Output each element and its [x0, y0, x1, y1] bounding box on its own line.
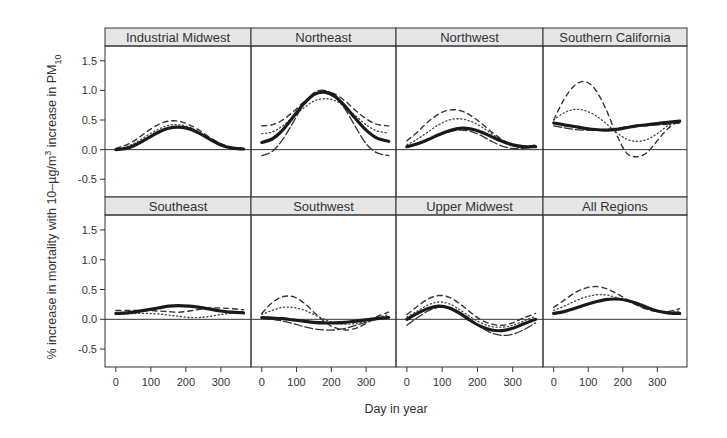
panel-border: [251, 215, 396, 367]
panel-border: [105, 46, 251, 197]
series-dotted: [116, 313, 244, 317]
y-tick-label: 1.0: [82, 84, 97, 96]
panel-title: Southeast: [149, 199, 208, 214]
panel-northwest: Northwest: [396, 28, 543, 197]
series-estimate: [407, 306, 536, 331]
y-tick-label: 0.5: [82, 284, 97, 296]
series-estimate: [262, 92, 389, 142]
x-tick-label: 300: [357, 376, 375, 388]
x-tick-label: 100: [579, 376, 597, 388]
x-tick-label: 300: [648, 376, 666, 388]
series-dashed2: [262, 90, 389, 155]
series-estimate: [116, 127, 244, 150]
y-axis-title-subscript: 10: [53, 55, 63, 65]
y-axis-title-middle: increase in PM: [45, 65, 59, 151]
panel-grid: Industrial MidwestNortheastNorthwestSout…: [105, 28, 687, 367]
series-estimate: [554, 299, 680, 313]
x-tick-label: 200: [614, 376, 632, 388]
panel-title: Southwest: [293, 199, 354, 214]
panel-border: [396, 215, 543, 367]
y-tick-label: 0.0: [82, 313, 97, 325]
panel-industrial-midwest: Industrial Midwest: [105, 28, 251, 197]
panel-title: Southern California: [559, 30, 671, 45]
panel-border: [543, 215, 687, 367]
x-tick-label: 200: [177, 376, 195, 388]
x-tick-label: 200: [468, 376, 486, 388]
series-dotted: [407, 119, 536, 148]
x-tick-label: 300: [212, 376, 230, 388]
y-tick-label: 1.0: [82, 254, 97, 266]
series-dashed: [262, 92, 389, 126]
y-axis-title-prefix: % increase in mortality with 10–µg/m: [45, 156, 59, 360]
panel-border: [396, 46, 543, 197]
y-axis-title: % increase in mortality with 10–µg/m3 in…: [43, 55, 63, 360]
y-tick-label: 0.5: [82, 114, 97, 126]
y-axis: -0.50.00.51.01.5-0.50.00.51.01.5: [78, 55, 105, 355]
panel-title: All Regions: [582, 199, 648, 214]
x-tick-label: 0: [113, 376, 119, 388]
y-tick-label: 0.0: [82, 144, 97, 156]
series-dotted: [262, 99, 389, 134]
x-tick-label: 100: [287, 376, 305, 388]
panel-northeast: Northeast: [251, 28, 396, 197]
x-tick-label: 200: [322, 376, 340, 388]
series-dashed: [262, 296, 389, 330]
x-axis-title: Day in year: [364, 402, 427, 416]
panel-southern-california: Southern California: [543, 28, 687, 197]
y-tick-label: -0.5: [78, 173, 97, 185]
y-tick-label: 1.5: [82, 224, 97, 236]
series-dotted: [407, 302, 536, 327]
x-tick-label: 0: [404, 376, 410, 388]
x-tick-label: 0: [259, 376, 265, 388]
panel-all-regions: All Regions: [543, 197, 687, 367]
series-dashed: [554, 81, 680, 156]
panel-southeast: Southeast: [105, 197, 251, 367]
panel-title: Northeast: [295, 30, 352, 45]
panel-southwest: Southwest: [251, 197, 396, 367]
x-tick-label: 100: [433, 376, 451, 388]
panel-upper-midwest: Upper Midwest: [396, 197, 543, 367]
panel-title: Industrial Midwest: [126, 30, 230, 45]
panel-title: Northwest: [440, 30, 499, 45]
panel-border: [251, 46, 396, 197]
chart: Industrial MidwestNortheastNorthwestSout…: [0, 0, 727, 438]
panel-title: Upper Midwest: [426, 199, 513, 214]
x-tick-label: 100: [142, 376, 160, 388]
x-axis: 0100200300010020030001002003000100200300: [113, 367, 667, 388]
x-tick-label: 300: [504, 376, 522, 388]
panel-border: [105, 215, 251, 367]
y-tick-label: 1.5: [82, 55, 97, 67]
y-tick-label: -0.5: [78, 343, 97, 355]
x-tick-label: 0: [551, 376, 557, 388]
